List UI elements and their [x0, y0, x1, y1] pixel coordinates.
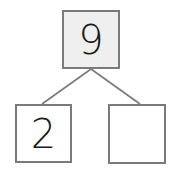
part-box-left: 2	[15, 104, 72, 163]
whole-box: 9	[62, 10, 120, 69]
part-box-right[interactable]	[108, 104, 166, 164]
part-value-left: 2	[31, 114, 56, 154]
whole-value: 9	[78, 20, 103, 60]
connector-left	[42, 69, 91, 104]
connector-right	[91, 69, 140, 104]
